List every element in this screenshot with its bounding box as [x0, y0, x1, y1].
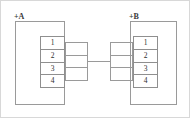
- terminal-b-3[interactable]: 3: [134, 63, 157, 76]
- cabinet-label-b: +B: [129, 13, 139, 21]
- terminal-a-3[interactable]: 3: [41, 63, 64, 76]
- terminal-b-1[interactable]: 1: [134, 37, 157, 50]
- terminal-a-1[interactable]: 1: [41, 37, 64, 50]
- left-connector-cell-2: [66, 56, 87, 69]
- cabinet-label-a: +A: [14, 13, 24, 21]
- left-connector-cell-1: [66, 43, 87, 56]
- right-connector: [110, 42, 133, 81]
- terminal-a-4[interactable]: 4: [41, 75, 64, 87]
- right-connector-cell-2: [111, 56, 132, 69]
- left-connector-cell-3: [66, 68, 87, 80]
- interconnect-cable: [88, 61, 110, 62]
- terminal-strip-a: 1 2 3 4: [40, 36, 65, 88]
- terminal-strip-b: 1 2 3 4: [133, 36, 158, 88]
- terminal-a-2[interactable]: 2: [41, 50, 64, 63]
- right-connector-cell-1: [111, 43, 132, 56]
- left-connector: [65, 42, 88, 81]
- diagram-canvas: +A 1 2 3 4 +B 1 2 3 4: [0, 0, 190, 118]
- right-connector-cell-3: [111, 68, 132, 80]
- terminal-b-2[interactable]: 2: [134, 50, 157, 63]
- terminal-b-4[interactable]: 4: [134, 75, 157, 87]
